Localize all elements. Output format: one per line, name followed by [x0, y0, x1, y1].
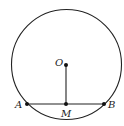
geometry-diagram: O A B M: [0, 0, 124, 126]
label-m: M: [60, 108, 72, 119]
point-m: [64, 102, 68, 106]
point-a: [25, 102, 29, 106]
label-b: B: [107, 99, 115, 110]
label-a: A: [14, 99, 22, 110]
point-o: [64, 63, 68, 67]
label-o: O: [55, 57, 63, 68]
point-b: [102, 102, 106, 106]
